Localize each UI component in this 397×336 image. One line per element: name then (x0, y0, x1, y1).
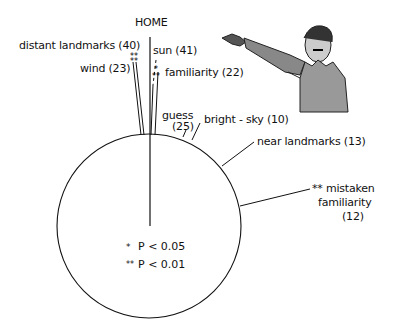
significance-marker: ** (152, 72, 160, 81)
legend-text: P < 0.05 (138, 240, 185, 253)
label-wind: wind (23) (80, 63, 130, 75)
label-mistaken-familiarity: familiarity (318, 197, 371, 209)
label-familiarity: familiarity (22) (165, 67, 244, 79)
label-guess-count: (25) (172, 121, 194, 133)
legend-symbol: ** (126, 262, 132, 268)
legend-symbol: * (126, 241, 138, 254)
vector-familiarity (155, 72, 158, 135)
label-mistaken: ** mistaken (312, 183, 375, 195)
significance-marker: ** (130, 57, 138, 66)
legend-p005: *P < 0.05 (126, 240, 185, 254)
label-bright-sky: bright - sky (10) (204, 114, 289, 126)
vector-near-landmarks (222, 142, 254, 166)
home-label: HOME (135, 17, 168, 29)
legend-text: P < 0.01 (138, 258, 185, 271)
legend-p001: **P < 0.01 (126, 258, 185, 271)
orientation-circle (57, 134, 241, 318)
label-distant-landmarks: distant landmarks (40) (19, 40, 140, 52)
label-near-landmarks: near landmarks (13) (257, 136, 366, 148)
label-mistaken-count: (12) (342, 211, 364, 223)
label-sun: sun (41) (153, 45, 197, 57)
orientation-diagram: ** ** * ** HOME dis (0, 0, 397, 336)
vector-mistaken-familiarity (240, 189, 310, 206)
vector-sun (151, 85, 153, 135)
